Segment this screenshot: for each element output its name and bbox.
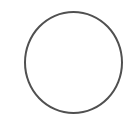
circle-button[interactable]: [24, 11, 123, 114]
canvas: [0, 0, 130, 129]
